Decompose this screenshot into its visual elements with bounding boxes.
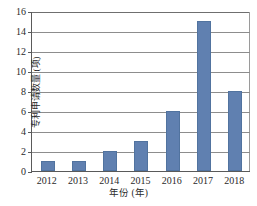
y-axis-title: 专利申请数量 (项) — [32, 56, 41, 127]
x-tick-label: 2016 — [162, 176, 182, 186]
bar — [197, 21, 211, 171]
plot-area: 0246810121416 — [31, 12, 250, 172]
bar — [41, 161, 55, 171]
y-tick-label: 14 — [16, 27, 26, 37]
x-tick-label: 2013 — [68, 176, 88, 186]
x-tick-label: 2012 — [37, 176, 57, 186]
y-tick-label: 2 — [21, 147, 26, 157]
bar — [72, 161, 86, 171]
y-tick-mark — [28, 172, 32, 173]
bar-slot — [63, 12, 94, 171]
bar — [166, 111, 180, 171]
x-tick-label: 2017 — [193, 176, 213, 186]
y-tick-label: 16 — [16, 7, 26, 17]
y-tick-label: 6 — [21, 107, 26, 117]
bar-slot — [188, 12, 219, 171]
y-tick-label: 0 — [21, 167, 26, 177]
bar-slot — [220, 12, 251, 171]
y-tick-label: 8 — [21, 87, 26, 97]
bar-slot — [95, 12, 126, 171]
bar — [228, 91, 242, 171]
bars-layer — [32, 12, 250, 171]
bar-slot — [126, 12, 157, 171]
x-axis-title: 年份 (年) — [0, 189, 257, 199]
x-tick-label: 2018 — [224, 176, 244, 186]
bar — [103, 151, 117, 171]
y-tick-label: 10 — [16, 67, 26, 77]
y-tick-label: 4 — [21, 127, 26, 137]
bar — [134, 141, 148, 171]
x-tick-label: 2014 — [99, 176, 119, 186]
x-tick-label: 2015 — [131, 176, 151, 186]
y-tick-label: 12 — [16, 47, 26, 57]
bar-chart-figure: 0246810121416 20122013201420152016201720… — [0, 0, 257, 206]
bar-slot — [157, 12, 188, 171]
